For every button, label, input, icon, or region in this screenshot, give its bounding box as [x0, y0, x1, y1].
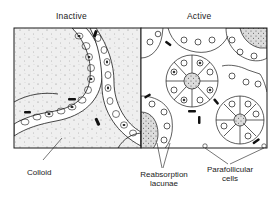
leader-parafollicular-2 — [230, 148, 264, 164]
label-reabsorption-lacunae: Reabsorption lacunae — [139, 170, 189, 188]
leader-parafollicular-1 — [205, 148, 228, 164]
inactive-panel — [14, 28, 141, 148]
active-follicle — [166, 55, 218, 107]
label-parafollicular-cells: Parafollicular cells — [202, 165, 258, 183]
active-panel — [141, 28, 267, 152]
label-parafollicular-line1: Parafollicular — [202, 165, 258, 174]
label-colloid: Colloid — [27, 168, 51, 177]
label-reabsorption-line2: lacunae — [139, 179, 189, 188]
label-parafollicular-line2: cells — [202, 174, 258, 183]
label-reabsorption-line1: Reabsorption — [139, 170, 189, 179]
